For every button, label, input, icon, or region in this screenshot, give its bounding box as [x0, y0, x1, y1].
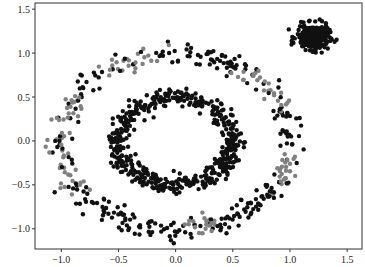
data-point: [226, 142, 230, 146]
data-point: [209, 57, 213, 61]
data-point: [307, 19, 311, 23]
data-point: [47, 150, 51, 154]
data-point: [280, 172, 284, 176]
data-point: [183, 179, 187, 183]
data-point: [227, 165, 231, 169]
data-point: [328, 28, 332, 32]
data-point: [175, 187, 179, 191]
data-point: [124, 154, 128, 158]
data-point: [194, 62, 198, 66]
data-point: [219, 101, 223, 105]
data-point: [219, 226, 223, 230]
data-point: [49, 117, 53, 121]
data-point: [116, 205, 120, 209]
data-point: [220, 54, 224, 58]
data-point: [219, 217, 223, 221]
data-point: [128, 124, 132, 128]
data-point: [224, 177, 228, 181]
data-point: [222, 157, 226, 161]
data-point: [194, 104, 198, 108]
data-point: [162, 99, 166, 103]
data-point: [71, 100, 75, 104]
data-point: [183, 230, 187, 234]
data-point: [84, 185, 88, 189]
data-point: [293, 174, 297, 178]
data-point: [289, 42, 293, 46]
data-point: [172, 241, 176, 245]
y-tick-label: 1.5: [18, 4, 31, 15]
data-point: [76, 79, 80, 83]
data-point: [188, 232, 192, 236]
x-tick-label: −0.5: [109, 254, 127, 265]
data-point: [106, 212, 110, 216]
data-point: [100, 218, 104, 222]
data-point: [235, 128, 239, 132]
data-point: [297, 134, 301, 138]
data-point: [142, 55, 146, 59]
data-point: [127, 58, 131, 62]
data-point: [167, 51, 171, 55]
data-point: [184, 87, 188, 91]
data-point: [44, 145, 48, 149]
data-point: [176, 59, 180, 63]
data-point: [79, 107, 83, 111]
data-point: [272, 172, 276, 176]
data-point: [73, 107, 77, 111]
data-point: [227, 132, 231, 136]
data-point: [148, 104, 152, 108]
data-point: [229, 71, 233, 75]
data-point: [269, 189, 273, 193]
y-tick-label: 0.5: [18, 92, 31, 103]
data-point: [132, 70, 136, 74]
data-point: [226, 120, 230, 124]
data-point: [211, 49, 215, 53]
data-point: [177, 228, 181, 232]
data-point: [161, 54, 165, 58]
data-point: [118, 69, 122, 73]
data-point: [61, 117, 65, 121]
data-point: [266, 195, 270, 199]
y-tick-label: −0.5: [12, 179, 30, 190]
data-point: [295, 161, 299, 165]
data-point: [234, 120, 238, 124]
data-point: [283, 176, 287, 180]
data-point: [129, 158, 133, 162]
data-point: [91, 201, 95, 205]
data-point: [209, 180, 213, 184]
data-point: [235, 203, 239, 207]
data-point: [230, 206, 234, 210]
data-point: [191, 182, 195, 186]
data-point: [140, 106, 144, 110]
y-tick-label: −1.0: [12, 223, 30, 234]
data-point: [145, 93, 149, 97]
data-point: [130, 165, 134, 169]
data-point: [122, 203, 126, 207]
data-point: [322, 43, 326, 47]
data-point: [132, 112, 136, 116]
data-point: [310, 29, 314, 33]
data-point: [198, 224, 202, 228]
data-point: [317, 26, 321, 30]
data-point: [237, 54, 241, 58]
data-point: [121, 160, 125, 164]
data-point: [213, 105, 217, 109]
data-point: [218, 113, 222, 117]
data-point: [81, 212, 85, 216]
data-point: [234, 63, 238, 67]
data-point: [173, 49, 177, 53]
data-point: [225, 149, 229, 153]
data-point: [284, 169, 288, 173]
data-point: [301, 147, 305, 151]
data-point: [229, 107, 233, 111]
data-point: [127, 98, 131, 102]
data-point: [285, 141, 289, 145]
data-point: [162, 182, 166, 186]
data-point: [126, 145, 130, 149]
data-point: [279, 95, 283, 99]
data-point: [150, 181, 154, 185]
data-point: [213, 157, 217, 161]
data-point: [60, 131, 64, 135]
data-point: [85, 192, 89, 196]
data-point: [128, 217, 132, 221]
data-point: [140, 62, 144, 66]
